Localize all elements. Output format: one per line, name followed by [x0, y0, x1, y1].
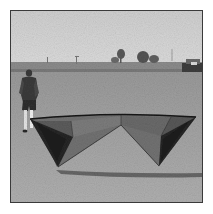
- sky: [11, 11, 203, 67]
- photo-frame: [10, 10, 203, 203]
- kite-photo: [11, 11, 203, 203]
